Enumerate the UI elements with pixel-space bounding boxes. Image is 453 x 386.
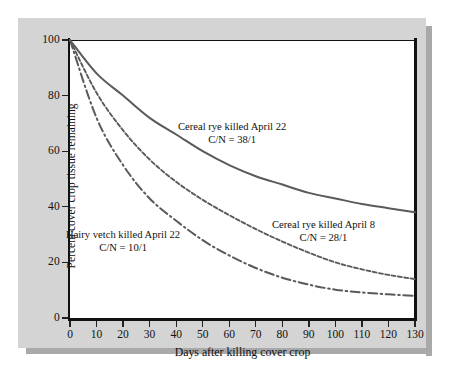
- plot-right-border: [414, 38, 417, 320]
- x-tick-70: [255, 321, 256, 327]
- x-tick-60: [229, 321, 230, 327]
- y-tick-0: [62, 317, 68, 318]
- y-tick-label-100: 100: [42, 33, 60, 45]
- x-tick-110: [361, 321, 362, 327]
- x-tick-30: [149, 321, 150, 327]
- figure-root: 020406080100 010203040506070809010011012…: [0, 0, 453, 386]
- x-tick-20: [122, 321, 123, 327]
- y-axis-title: Percent cover crop tissue remaining: [65, 61, 77, 311]
- x-tick-40: [176, 321, 177, 327]
- x-axis-line: [68, 318, 417, 321]
- annotation-rye-april-22-line2: C/N = 38/1: [178, 134, 286, 147]
- x-tick-100: [335, 321, 336, 327]
- y-axis-title-holder: Percent cover crop tissue remaining: [34, 45, 52, 315]
- x-tick-label-130: 130: [395, 328, 435, 340]
- annotation-hairy-vetch-line1: Hairy vetch killed April 22: [66, 229, 180, 240]
- x-axis-title: Days after killing cover crop: [70, 345, 415, 360]
- x-tick-90: [308, 321, 309, 327]
- x-tick-50: [202, 321, 203, 327]
- annotation-rye-april-22: Cereal rye killed April 22 C/N = 38/1: [178, 121, 286, 147]
- panel-drop-shadow-right: [426, 26, 432, 356]
- annotation-hairy-vetch-april-22: Hairy vetch killed April 22 C/N = 10/1: [66, 229, 180, 255]
- x-tick-120: [388, 321, 389, 327]
- annotation-rye-april-22-line1: Cereal rye killed April 22: [178, 121, 286, 132]
- x-tick-130: [414, 321, 415, 327]
- x-tick-80: [282, 321, 283, 327]
- y-tick-100: [62, 39, 68, 40]
- x-tick-0: [69, 321, 70, 327]
- annotation-rye-april-8: Cereal rye killed April 8 C/N = 28/1: [272, 219, 375, 245]
- annotation-rye-april-8-line1: Cereal rye killed April 8: [272, 219, 375, 230]
- plot-area: [70, 40, 416, 319]
- annotation-hairy-vetch-line2: C/N = 10/1: [66, 242, 180, 255]
- y-tick-label-0: 0: [54, 311, 60, 323]
- x-tick-10: [96, 321, 97, 327]
- annotation-rye-april-8-line2: C/N = 28/1: [272, 232, 375, 245]
